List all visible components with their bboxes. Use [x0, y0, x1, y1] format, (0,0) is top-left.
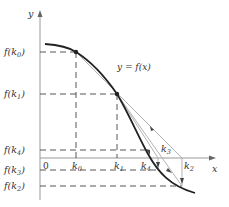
y-label-f-k2: f(k2)	[3, 180, 25, 193]
origin-label: 0	[43, 161, 49, 171]
arrow-icon	[150, 126, 154, 131]
x-label-k0: k0	[72, 160, 82, 173]
point-k0	[74, 50, 78, 54]
secant-method-diagram: y x 0 y = f(x) f(k0) f(k1) f(k4) f(k3) f…	[0, 0, 229, 207]
y-axis-arrow-icon	[38, 10, 43, 17]
y-label-f-k4: f(k4)	[3, 144, 25, 157]
guide-lines	[40, 52, 182, 186]
y-label-f-k3: f(k3)	[3, 164, 25, 177]
arrow-icon	[180, 178, 184, 184]
x-axis-arrow-icon	[209, 156, 216, 161]
y-axis-label: y	[27, 8, 34, 19]
x-label-k1: k1	[114, 160, 124, 173]
x-label-k2: k2	[184, 160, 194, 173]
secant-lines	[76, 52, 182, 186]
curve-label: y = f(x)	[116, 62, 151, 72]
x-axis-label: x	[212, 163, 218, 174]
y-label-f-k0: f(k0)	[3, 46, 25, 59]
x-label-k4: k4	[141, 160, 151, 173]
y-label-f-k1: f(k1)	[3, 88, 25, 101]
arrowheads	[146, 126, 184, 184]
point-k1	[115, 92, 119, 96]
